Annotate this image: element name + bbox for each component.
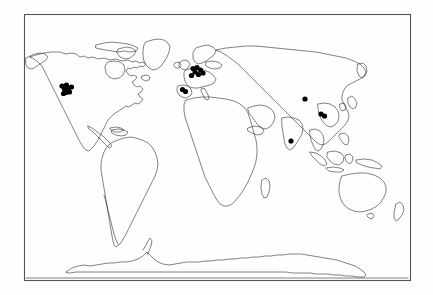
marker-point [200, 70, 205, 75]
marker-point [183, 89, 188, 94]
map-canvas [0, 0, 433, 295]
marker-point [302, 96, 307, 101]
world-distribution-map [0, 0, 433, 295]
map-background [0, 0, 433, 295]
marker-point [288, 138, 293, 143]
marker-point [61, 91, 66, 96]
marker-point [69, 84, 74, 89]
marker-point [189, 73, 194, 78]
marker-point [196, 72, 201, 77]
marker-point [67, 89, 72, 94]
marker-point [322, 113, 327, 118]
